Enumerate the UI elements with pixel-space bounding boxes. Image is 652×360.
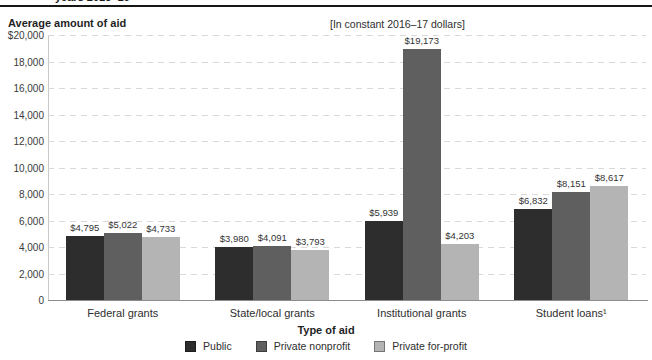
bar-column: $4,091 bbox=[253, 35, 291, 300]
bar-value-label: $8,151 bbox=[557, 178, 586, 189]
y-tick-label: 2,000 bbox=[19, 268, 44, 279]
legend-color-chip bbox=[185, 341, 196, 352]
figure-average-aid-chart: years 2015–16 Average amount of aid [In … bbox=[0, 0, 652, 360]
legend-label: Private for-profit bbox=[392, 340, 467, 352]
y-tick-label: 0 bbox=[38, 295, 44, 306]
bar-column: $3,980 bbox=[215, 35, 253, 300]
bar-private-for-profit bbox=[142, 237, 180, 300]
bar-private-for-profit bbox=[291, 250, 329, 300]
bar-public bbox=[365, 221, 403, 300]
legend-color-chip bbox=[374, 341, 385, 352]
bar-group: $3,980$4,091$3,793State/local grants bbox=[215, 35, 329, 300]
bar-value-label: $3,980 bbox=[220, 233, 249, 244]
bar-private-nonprofit bbox=[253, 246, 291, 300]
bar-value-label: $5,939 bbox=[369, 207, 398, 218]
bar-column: $3,793 bbox=[291, 35, 329, 300]
x-axis-title: Type of aid bbox=[0, 324, 652, 336]
y-tick-label: $20,000 bbox=[8, 30, 44, 41]
bar-value-label: $4,795 bbox=[70, 222, 99, 233]
category-label: Institutional grants bbox=[377, 307, 466, 319]
category-label: Federal grants bbox=[87, 307, 158, 319]
y-axis-title: Average amount of aid bbox=[8, 17, 126, 29]
bar-private-for-profit bbox=[590, 186, 628, 300]
y-tick-label: 16,000 bbox=[13, 83, 44, 94]
legend-item: Public bbox=[185, 340, 232, 352]
bar-column: $8,617 bbox=[590, 35, 628, 300]
legend-label: Private nonprofit bbox=[274, 340, 350, 352]
bar-value-label: $4,203 bbox=[445, 230, 474, 241]
y-tick-label: 18,000 bbox=[13, 56, 44, 67]
bar-public bbox=[215, 247, 253, 300]
bar-column: $5,939 bbox=[365, 35, 403, 300]
y-tick-label: 10,000 bbox=[13, 162, 44, 173]
bar-column: $4,203 bbox=[441, 35, 479, 300]
bar-private-nonprofit bbox=[552, 192, 590, 300]
y-tick-label: 14,000 bbox=[13, 109, 44, 120]
bar-value-label: $8,617 bbox=[595, 172, 624, 183]
legend-item: Private for-profit bbox=[374, 340, 467, 352]
bar-value-label: $4,733 bbox=[146, 223, 175, 234]
category-label: State/local grants bbox=[230, 307, 315, 319]
y-tick-label: 4,000 bbox=[19, 242, 44, 253]
plot-area: $4,795$5,022$4,733Federal grants$3,980$4… bbox=[48, 35, 646, 300]
bar-group: $5,939$19,173$4,203Institutional grants bbox=[365, 35, 479, 300]
bar-public bbox=[514, 209, 552, 300]
x-axis-line bbox=[48, 300, 648, 301]
y-tick-label: 8,000 bbox=[19, 189, 44, 200]
bar-value-label: $19,173 bbox=[405, 35, 439, 46]
bar-groups: $4,795$5,022$4,733Federal grants$3,980$4… bbox=[48, 35, 646, 300]
legend-label: Public bbox=[203, 340, 232, 352]
y-tick-label: 6,000 bbox=[19, 215, 44, 226]
bar-column: $8,151 bbox=[552, 35, 590, 300]
bar-value-label: $6,832 bbox=[519, 195, 548, 206]
legend-color-chip bbox=[256, 341, 267, 352]
bar-value-label: $5,022 bbox=[108, 219, 137, 230]
category-label: Student loans¹ bbox=[536, 307, 607, 319]
bar-column: $4,795 bbox=[66, 35, 104, 300]
bar-private-nonprofit bbox=[104, 233, 142, 300]
top-rule bbox=[0, 5, 652, 7]
y-axis-tick-labels: $20,00018,00016,00014,00012,00010,0008,0… bbox=[0, 35, 44, 300]
bar-group: $6,832$8,151$8,617Student loans¹ bbox=[514, 35, 628, 300]
units-note: [In constant 2016–17 dollars] bbox=[330, 18, 465, 30]
legend-item: Private nonprofit bbox=[256, 340, 350, 352]
bar-private-nonprofit bbox=[403, 49, 441, 300]
bar-private-for-profit bbox=[441, 244, 479, 300]
bar-column: $5,022 bbox=[104, 35, 142, 300]
bar-value-label: $3,793 bbox=[296, 236, 325, 247]
bar-column: $19,173 bbox=[403, 35, 441, 300]
bar-column: $4,733 bbox=[142, 35, 180, 300]
bar-value-label: $4,091 bbox=[258, 232, 287, 243]
clipped-caption-text: years 2015–16 bbox=[55, 0, 255, 3]
legend: PublicPrivate nonprofitPrivate for-profi… bbox=[0, 340, 652, 352]
y-tick-label: 12,000 bbox=[13, 136, 44, 147]
bar-group: $4,795$5,022$4,733Federal grants bbox=[66, 35, 180, 300]
bar-public bbox=[66, 236, 104, 300]
bar-column: $6,832 bbox=[514, 35, 552, 300]
